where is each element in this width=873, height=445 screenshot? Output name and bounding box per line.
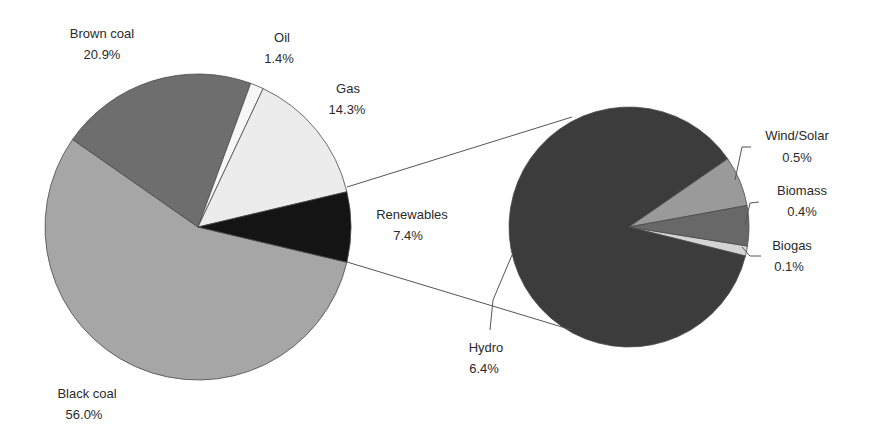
label-renewables: Renewables	[376, 207, 448, 222]
label-gas: Gas	[336, 81, 360, 96]
label-hydro: Hydro	[469, 340, 504, 355]
label-biomass: Biomass	[777, 183, 827, 198]
label-oil: Oil	[274, 30, 290, 45]
pie-of-pie-chart: Brown coal 20.9% Oil 1.4% Gas 14.3% Rene…	[0, 0, 873, 445]
secondary-pie	[509, 107, 749, 347]
value-gas: 14.3%	[329, 102, 366, 117]
value-hydro: 6.4%	[469, 361, 499, 376]
label-brown-coal: Brown coal	[70, 26, 134, 41]
value-black-coal: 56.0%	[66, 407, 103, 422]
value-oil: 1.4%	[264, 51, 294, 66]
value-renewables: 7.4%	[393, 228, 423, 243]
value-brown-coal: 20.9%	[84, 47, 121, 62]
label-biogas: Biogas	[772, 238, 812, 253]
main-pie	[45, 74, 351, 380]
leader-line-hydro	[490, 255, 512, 330]
value-biomass: 0.4%	[787, 204, 817, 219]
label-wind-solar: Wind/Solar	[765, 128, 829, 143]
value-wind-solar: 0.5%	[782, 150, 812, 165]
value-biogas: 0.1%	[774, 259, 804, 274]
label-black-coal: Black coal	[57, 386, 116, 401]
